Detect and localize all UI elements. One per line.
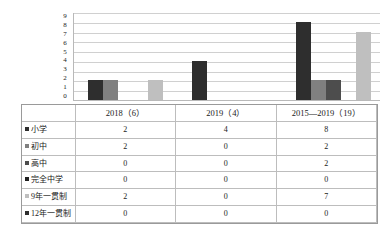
column-header: 2018（6） <box>75 105 176 122</box>
table-cell-value: 0 <box>276 172 377 189</box>
bar-group <box>178 13 282 100</box>
y-axis-tick-labels: 9876543210 <box>58 13 72 100</box>
table-cell-value: 7 <box>276 189 377 206</box>
bar-group <box>74 13 178 100</box>
y-tick-label: 1 <box>63 84 67 91</box>
legend-row-label: 初中 <box>22 138 75 155</box>
table-cell-value: 0 <box>176 206 277 223</box>
table-cell-value: 0 <box>75 172 176 189</box>
table-cell-value: 0 <box>176 189 277 206</box>
legend-row-label: 完全中学 <box>22 172 75 189</box>
legend-label-text: 12年一贯制 <box>31 210 71 218</box>
data-table: 2018（6）2019（4）2015—2019（19）小学248初中202高中0… <box>21 104 378 224</box>
bar <box>356 32 371 100</box>
table-cell-value: 4 <box>176 122 277 139</box>
table-row: 初中202 <box>22 138 377 155</box>
table-cell-value: 2 <box>75 138 176 155</box>
table-cell-value: 8 <box>276 122 377 139</box>
legend-swatch-icon <box>25 161 29 165</box>
y-tick-label: 2 <box>63 75 67 82</box>
bar <box>296 22 311 100</box>
bar-groups <box>74 13 380 100</box>
y-tick-label: 7 <box>63 31 67 38</box>
table-cell-value: 0 <box>176 155 277 172</box>
table-cell-value: 2 <box>75 122 176 139</box>
y-tick-label: 8 <box>63 22 67 29</box>
column-header: 2019（4） <box>176 105 277 122</box>
legend-swatch-icon <box>25 144 29 148</box>
table-cell-value: 2 <box>276 155 377 172</box>
bar <box>88 80 103 100</box>
legend-swatch-icon <box>25 127 29 131</box>
table-row: 高中002 <box>22 155 377 172</box>
table-row: 9年一贯制207 <box>22 189 377 206</box>
legend-row-label: 9年一贯制 <box>22 189 75 206</box>
bar <box>311 80 326 100</box>
table-cell-value: 2 <box>276 138 377 155</box>
table-row: 完全中学000 <box>22 172 377 189</box>
legend-label-text: 完全中学 <box>31 176 63 184</box>
table-row: 12年一贯制000 <box>22 206 377 223</box>
table-cell-value: 0 <box>176 138 277 155</box>
table-corner-cell <box>22 105 75 122</box>
table-cell-value: 0 <box>75 206 176 223</box>
plot-area <box>74 13 380 101</box>
table-row: 小学248 <box>22 122 377 139</box>
legend-row-label: 12年一贯制 <box>22 206 75 223</box>
bar-group <box>282 13 386 100</box>
bar-chart: 9876543210 <box>58 13 380 105</box>
y-tick-label: 4 <box>63 57 67 64</box>
table-cell-value: 0 <box>75 155 176 172</box>
column-header: 2015—2019（19） <box>276 105 377 122</box>
legend-row-label: 高中 <box>22 155 75 172</box>
bar <box>103 80 118 100</box>
legend-label-text: 小学 <box>31 126 47 134</box>
legend-label-text: 高中 <box>31 160 47 168</box>
bar <box>192 61 207 100</box>
table-cell-value: 0 <box>276 206 377 223</box>
y-tick-label: 9 <box>63 13 67 20</box>
bar <box>148 80 163 100</box>
table-cell-value: 2 <box>75 189 176 206</box>
y-tick-label: 3 <box>63 66 67 73</box>
legend-label-text: 9年一贯制 <box>31 193 67 201</box>
legend-swatch-icon <box>25 194 29 198</box>
bar <box>326 80 341 100</box>
y-tick-label: 6 <box>63 40 67 47</box>
table-cell-value: 0 <box>176 172 277 189</box>
legend-label-text: 初中 <box>31 143 47 151</box>
legend-swatch-icon <box>25 177 29 181</box>
table-header-row: 2018（6）2019（4）2015—2019（19） <box>22 105 377 122</box>
table-body: 2018（6）2019（4）2015—2019（19）小学248初中202高中0… <box>22 105 377 223</box>
chart-figure: 9876543210 2018（6）2019（4）2015—2019（19）小学… <box>0 0 391 238</box>
y-tick-label: 0 <box>63 93 67 100</box>
legend-swatch-icon <box>25 211 29 215</box>
y-tick-label: 5 <box>63 49 67 56</box>
legend-row-label: 小学 <box>22 122 75 139</box>
